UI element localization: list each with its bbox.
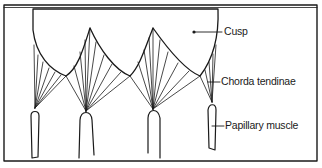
chordae-tendinae-group-3 (130, 28, 200, 109)
papillary-muscle-2 (79, 113, 94, 159)
chordae-tendinae-group-1 (34, 45, 66, 108)
papillary-muscle-3 (148, 111, 160, 159)
chorda-tendinae-label: Chorda tendinae (221, 75, 296, 87)
cusp-label: Cusp (224, 25, 248, 37)
chordae-tendinae-group-2 (66, 28, 130, 111)
cusp-outline (33, 9, 218, 76)
papillary-muscle-1 (31, 112, 39, 159)
papillary-muscle-label: Papillary muscle (225, 119, 298, 131)
cusp-pointer-dot (192, 30, 195, 33)
papillary-muscle-4 (208, 105, 216, 150)
